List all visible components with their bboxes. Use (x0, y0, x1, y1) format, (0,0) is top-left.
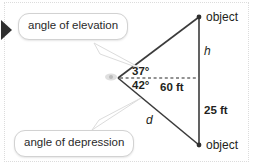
label-object-bottom: object (206, 139, 238, 151)
callout-angle-of-elevation: angle of elevation (18, 13, 128, 40)
callout-elevation-label: angle of elevation (28, 19, 118, 31)
label-lower-leg-25ft: 25 ft (204, 105, 228, 117)
callout-depression-label: angle of depression (24, 136, 124, 148)
observer-eye-icon (105, 74, 117, 81)
label-angle-37: 37° (132, 66, 149, 78)
line-of-sight-elevation (118, 17, 199, 78)
left-arrow-marker (1, 20, 12, 40)
geometry-figure: angle of elevation angle of depression o… (0, 0, 255, 165)
label-angle-42: 42° (132, 80, 149, 92)
label-object-top: object (206, 11, 238, 23)
vertex-dot-bottom (197, 143, 202, 148)
label-height-h: h (204, 45, 211, 57)
callout-angle-of-depression: angle of depression (14, 130, 134, 157)
label-distance-d: d (146, 114, 153, 126)
vertex-dot-top (197, 15, 202, 20)
label-horizontal-60ft: 60 ft (160, 82, 184, 94)
callout-tail-depression (92, 98, 141, 130)
